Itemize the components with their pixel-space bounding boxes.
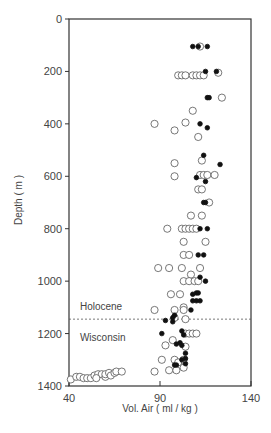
open-data-point <box>193 330 200 337</box>
annotation-holocene: Holocene <box>80 301 123 312</box>
open-data-point <box>178 264 185 271</box>
filled-data-point <box>180 357 185 362</box>
open-data-point <box>171 306 178 313</box>
open-data-point <box>151 368 158 375</box>
filled-data-point <box>172 363 177 368</box>
plot-frame <box>69 19 251 386</box>
depth-vs-air-volume-chart: 40901400200400600800100012001400 Vol. Ai… <box>0 0 271 433</box>
x-tick-label: 140 <box>242 392 260 404</box>
filled-data-point <box>174 342 179 347</box>
filled-data-point <box>207 95 212 100</box>
open-data-point <box>202 238 209 245</box>
filled-data-point <box>198 226 203 231</box>
filled-data-point <box>214 69 219 74</box>
filled-data-point <box>198 275 203 280</box>
filled-data-point <box>160 331 165 336</box>
open-data-point <box>182 316 189 323</box>
open-data-point <box>173 367 180 374</box>
y-tick-label: 1000 <box>38 275 62 287</box>
open-data-point <box>204 171 211 178</box>
open-data-point <box>166 264 173 271</box>
filled-data-point <box>198 299 203 304</box>
filled-data-point <box>196 253 201 258</box>
filled-data-point <box>181 333 186 338</box>
open-data-point <box>176 291 183 298</box>
open-data-point <box>182 72 189 79</box>
open-data-point <box>189 107 196 114</box>
filled-data-point <box>203 179 208 184</box>
filled-data-point <box>189 308 194 313</box>
x-axis-label: Vol. Air ( ml / kg ) <box>122 403 198 414</box>
open-data-point <box>211 171 218 178</box>
open-data-point <box>186 251 193 258</box>
open-data-point <box>187 212 194 219</box>
filled-data-point <box>180 343 185 348</box>
y-tick-label: 200 <box>44 65 62 77</box>
open-data-point <box>171 173 178 180</box>
filled-data-point <box>203 200 208 205</box>
filled-data-point <box>201 153 206 158</box>
open-data-point <box>182 119 189 126</box>
y-tick-label: 800 <box>44 223 62 235</box>
y-tick-label: 0 <box>56 13 62 25</box>
filled-data-point <box>203 69 208 74</box>
open-data-point <box>151 120 158 127</box>
open-data-point <box>151 306 158 313</box>
y-tick-label: 1200 <box>38 328 62 340</box>
open-data-point <box>198 212 205 219</box>
open-data-point <box>167 291 174 298</box>
open-data-point <box>155 264 162 271</box>
open-data-point <box>171 127 178 134</box>
filled-data-point <box>205 226 210 231</box>
open-data-point <box>187 271 194 278</box>
filled-data-point <box>196 291 201 296</box>
filled-data-point <box>198 122 203 127</box>
open-data-point <box>180 306 187 313</box>
filled-data-point <box>190 44 195 49</box>
open-data-point <box>198 186 205 193</box>
filled-data-point <box>201 253 206 258</box>
open-data-point <box>118 368 125 375</box>
y-tick-label: 400 <box>44 118 62 130</box>
filled-data-point <box>218 162 223 167</box>
open-data-point <box>198 157 205 164</box>
open-data-point <box>158 356 165 363</box>
filled-data-point <box>183 361 188 366</box>
y-tick-label: 600 <box>44 170 62 182</box>
y-tick-label: 1400 <box>38 380 62 392</box>
open-data-point <box>162 342 169 349</box>
filled-data-point <box>163 318 168 323</box>
filled-data-point <box>183 351 188 356</box>
filled-data-point <box>205 44 210 49</box>
filled-data-point <box>194 175 199 180</box>
x-tick-label: 40 <box>63 392 75 404</box>
annotation-wisconsin: Wisconsin <box>80 332 126 343</box>
open-data-point <box>180 238 187 245</box>
y-axis-label: Depth ( m ) <box>13 175 24 225</box>
open-data-point <box>166 367 173 374</box>
scatter-plot: 40901400200400600800100012001400 Vol. Ai… <box>0 0 271 433</box>
open-data-point <box>196 264 203 271</box>
filled-data-point <box>196 44 201 49</box>
open-data-point <box>218 94 225 101</box>
annotations: HoloceneWisconsin <box>80 301 126 343</box>
filled-data-point <box>203 279 208 284</box>
axes: 40901400200400600800100012001400 <box>38 13 261 404</box>
filled-data-point <box>205 125 210 130</box>
filled-data-point <box>170 319 175 324</box>
open-data-point <box>171 160 178 167</box>
open-data-point <box>164 225 171 232</box>
open-data-point <box>93 375 100 382</box>
open-data-point <box>195 133 202 140</box>
